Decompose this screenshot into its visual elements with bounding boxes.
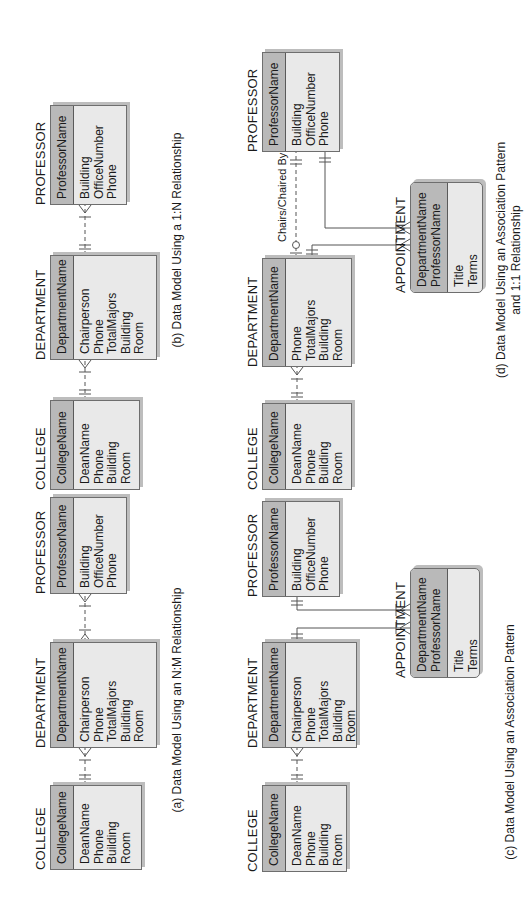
attribute: Phone: [93, 261, 107, 354]
attribute-section: DeanName Phone Building Room: [286, 786, 350, 871]
caption-b: (b) Data Model Using a 1:N Relationship: [170, 133, 185, 348]
attribute: Building: [332, 648, 346, 742]
primary-key-section: CollegeName: [263, 786, 286, 871]
attribute: Phone: [318, 58, 332, 146]
primary-key-section: DepartmentName ProfessorName: [411, 183, 448, 292]
attribute: Building: [106, 406, 120, 484]
attribute: OfficeNumber: [93, 111, 107, 199]
attribute: Room: [332, 791, 346, 866]
key-attribute: DepartmentName: [55, 261, 69, 354]
primary-key-section: ProfessorName: [263, 53, 286, 151]
attribute-section: Chairperson Phone TotalMajors Building R…: [74, 256, 152, 359]
caption-d-line1: (d) Data Model Using an Association Patt…: [494, 142, 509, 378]
entity-title: COLLEGE: [33, 427, 48, 490]
entity-a-professor: PROFESSOR ProfessorName Building OfficeN…: [50, 497, 127, 594]
entity-title: PROFESSOR: [33, 122, 48, 205]
primary-key-section: CollegeName: [263, 404, 286, 489]
entity-box: DepartmentName Phone TotalMajors Buildin…: [262, 258, 352, 367]
primary-key-section: DepartmentName: [51, 643, 74, 747]
primary-key-section: ProfessorName: [51, 498, 74, 593]
entity-title: DEPARTMENT: [245, 658, 260, 748]
entity-d-professor: PROFESSOR ProfessorName Building OfficeN…: [262, 52, 340, 152]
attribute: Title: [453, 188, 467, 287]
entity-c-department: DEPARTMENT DepartmentName Chairperson Ph…: [262, 642, 357, 748]
entity-box: CollegeName DeanName Phone Building Room: [262, 403, 352, 490]
attribute: Building: [291, 507, 305, 591]
attribute: Building: [79, 503, 93, 588]
key-attribute: CollegeName: [55, 406, 69, 484]
attribute-section: Building OfficeNumber Phone: [74, 106, 125, 204]
key-attribute: DepartmentName: [55, 648, 69, 742]
attribute: Phone: [93, 406, 107, 484]
entity-box: ProfessorName Building OfficeNumber Phon…: [262, 52, 340, 152]
attribute: Building: [79, 111, 93, 199]
key-attribute: DepartmentName: [267, 264, 281, 361]
primary-key-section: DepartmentName: [263, 259, 286, 366]
key-attribute: DepartmentName: [267, 648, 281, 742]
key-attribute: CollegeName: [55, 791, 69, 864]
attribute: Room: [120, 791, 134, 864]
key-attribute: DepartmentName: [415, 188, 429, 287]
entity-box: CollegeName DeanName Phone Building Room: [262, 785, 347, 872]
entity-title: APPOINTMENT: [393, 197, 408, 293]
primary-key-section: CollegeName: [51, 401, 74, 489]
entity-a-department: DEPARTMENT DepartmentName Chairperson Ph…: [50, 642, 157, 748]
primary-key-section: ProfessorName: [51, 106, 74, 204]
entity-title: APPOINTMENT: [393, 582, 408, 678]
attribute: Room: [133, 648, 147, 742]
attribute: Room: [133, 261, 147, 354]
attribute: Phone: [291, 264, 305, 361]
entity-box: ProfessorName Building OfficeNumber Phon…: [262, 501, 340, 597]
attribute: Phone: [318, 507, 332, 591]
key-attribute: DepartmentName: [415, 574, 429, 672]
primary-key-section: DepartmentName: [263, 643, 286, 747]
attribute: Building: [318, 791, 332, 866]
key-attribute: ProfessorName: [267, 507, 281, 591]
key-attribute: ProfessorName: [429, 188, 443, 287]
attribute: Building: [120, 261, 134, 354]
attribute: OfficeNumber: [305, 507, 319, 591]
entity-title: COLLEGE: [245, 427, 260, 490]
primary-key-section: CollegeName: [51, 786, 74, 869]
entity-box: ProfessorName Building OfficeNumber Phon…: [50, 497, 127, 594]
entity-b-professor: PROFESSOR ProfessorName Building OfficeN…: [50, 105, 127, 205]
entity-title: COLLEGE: [33, 807, 48, 870]
attribute-section: Chairperson Phone TotalMajors Building R…: [286, 643, 364, 747]
relationship-label-chairs: Chairs/Chaired By: [276, 153, 288, 242]
entity-b-college: COLLEGE CollegeName DeanName Phone Build…: [50, 400, 140, 490]
attribute-section: Title Terms: [448, 183, 485, 292]
attribute: Building: [291, 58, 305, 146]
er-diagram-stage: COLLEGE CollegeName DeanName Phone Build…: [0, 0, 530, 922]
attribute: Phone: [93, 648, 107, 742]
attribute: Building: [318, 264, 332, 361]
attribute-section: Building OfficeNumber Phone: [286, 53, 337, 151]
entity-title: DEPARTMENT: [33, 658, 48, 748]
entity-box: DepartmentName ProfessorName Title Terms: [410, 568, 480, 678]
attribute: TotalMajors: [318, 648, 332, 742]
entity-box: CollegeName DeanName Phone Building Room: [50, 400, 140, 490]
entity-title: COLLEGE: [245, 809, 260, 872]
rel-d-department-professor-chairs: [290, 152, 302, 258]
attribute: Chairperson: [79, 261, 93, 354]
attribute-section: Chairperson Phone TotalMajors Building R…: [74, 643, 152, 747]
entity-title: PROFESSOR: [245, 514, 260, 597]
rel-a-department-professor: [79, 594, 91, 642]
key-attribute: CollegeName: [267, 791, 281, 866]
attribute: DeanName: [79, 406, 93, 484]
caption-a: (a) Data Model Using an N:M Relationship: [170, 588, 185, 813]
primary-key-section: ProfessorName: [263, 502, 286, 596]
entity-box: DepartmentName ProfessorName Title Terms: [410, 182, 483, 293]
entity-d-college: COLLEGE CollegeName DeanName Phone Build…: [262, 403, 352, 490]
entity-title: DEPARTMENT: [33, 270, 48, 360]
attribute: Phone: [305, 409, 319, 484]
attribute: Phone: [305, 791, 319, 866]
key-attribute: CollegeName: [267, 409, 281, 484]
key-attribute: ProfessorName: [55, 111, 69, 199]
rel-b-department-professor: [79, 205, 91, 255]
attribute: Phone: [305, 648, 319, 742]
attribute: Room: [332, 409, 346, 484]
rel-b-college-department: [79, 360, 91, 400]
attribute: Room: [120, 406, 134, 484]
attribute: OfficeNumber: [93, 503, 107, 588]
attribute-section: Title Terms: [448, 569, 485, 677]
